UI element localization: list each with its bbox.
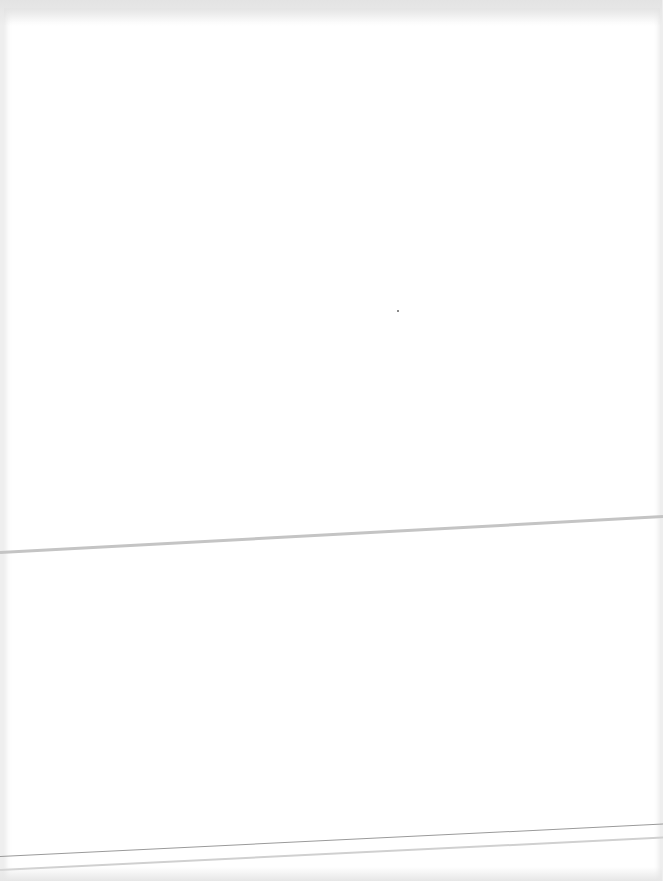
blank-page bbox=[4, 8, 660, 881]
scan-bottom-shadow bbox=[0, 867, 662, 881]
dust-speck bbox=[397, 310, 399, 312]
scan-top-shadow bbox=[0, 0, 662, 26]
